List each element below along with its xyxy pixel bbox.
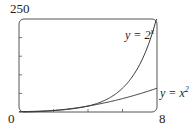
plot-area bbox=[0, 0, 195, 131]
series-label-square: y = x2 bbox=[160, 83, 189, 100]
series-label-exp: y = 2x bbox=[125, 25, 154, 42]
curve-square bbox=[19, 88, 157, 112]
